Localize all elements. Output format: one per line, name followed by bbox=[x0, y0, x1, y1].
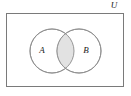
universal-set-label: U bbox=[111, 0, 118, 10]
set-b-label: B bbox=[83, 45, 89, 55]
set-a-label: A bbox=[38, 45, 45, 55]
venn-diagram-canvas: A B U bbox=[0, 0, 131, 96]
venn-diagram-figure: A B U bbox=[0, 0, 131, 96]
